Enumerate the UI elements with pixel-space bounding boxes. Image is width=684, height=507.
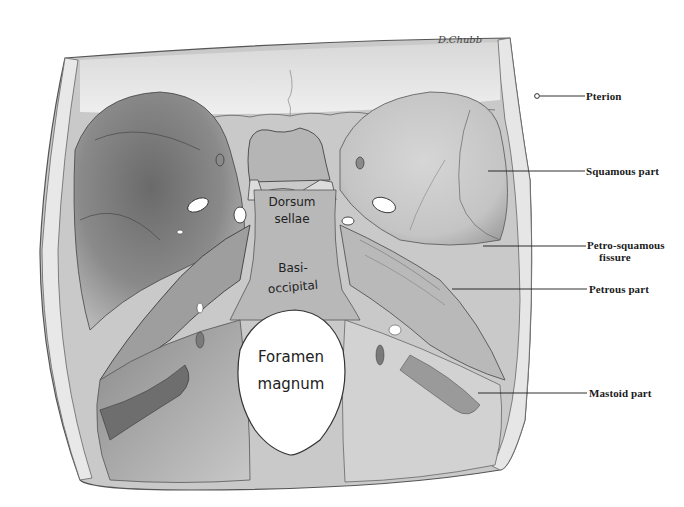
foramen-magnum-line1: Foramen <box>240 350 342 365</box>
callout-petro-squamous-fissure: Petro-squamous fissure <box>587 239 665 263</box>
dorsum-sellae-label: Dorsum sellae <box>252 196 332 225</box>
callout-petrous-part: Petrous part <box>589 283 649 295</box>
callout-mastoid-part: Mastoid part <box>589 387 652 399</box>
basi-occipital-label: Basi- occipital <box>248 262 338 293</box>
callout-squamous-part: Squamous part <box>586 165 659 177</box>
callout-pterion: Pterion <box>586 90 622 102</box>
callout-petro-squamous-line1: Petro-squamous <box>587 239 665 251</box>
artist-signature: D.Chubb <box>438 34 482 45</box>
skull-base-illustration <box>0 0 684 507</box>
callout-petro-squamous-line2: fissure <box>587 251 665 263</box>
foramen-magnum-label: Foramen magnum <box>240 350 342 392</box>
foramen-magnum-line2: magnum <box>240 377 342 392</box>
basi-occipital-line1: Basi- <box>248 262 338 274</box>
dorsum-sellae-line2: sellae <box>252 213 332 225</box>
dorsum-sellae-line1: Dorsum <box>252 196 332 208</box>
